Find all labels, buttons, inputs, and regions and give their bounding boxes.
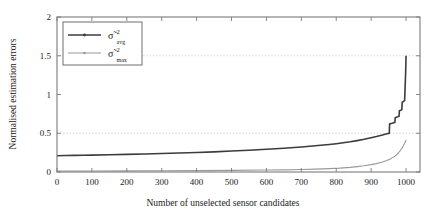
x-tick-label: 900 bbox=[364, 177, 378, 187]
x-tick-label: 1000 bbox=[397, 177, 416, 187]
x-tick-label: 300 bbox=[155, 177, 169, 187]
legend-label-sigma-max-sub: max bbox=[117, 57, 127, 63]
y-tick-label: 0 bbox=[47, 167, 52, 177]
y-axis-label: Normalised estimation errors bbox=[8, 38, 18, 149]
x-tick-label: 400 bbox=[190, 177, 204, 187]
x-tick-label: 200 bbox=[120, 177, 134, 187]
legend-swatch-marker-sigma-avg bbox=[83, 34, 86, 37]
x-tick-label: 700 bbox=[295, 177, 309, 187]
legend-label-sigma-max-sup: 2 bbox=[117, 46, 120, 53]
y-tick-label: 2 bbox=[47, 12, 52, 22]
x-tick-label: 800 bbox=[329, 177, 343, 187]
x-axis-tick-labels: 01002003004005006007008009001000 bbox=[55, 177, 416, 187]
x-tick-label: 0 bbox=[55, 177, 60, 187]
x-axis-label: Number of unselected sensor candidates bbox=[146, 198, 299, 208]
legend: σ̃ 2 avg σ̃ 2 max bbox=[63, 22, 142, 65]
legend-label-sigma-avg-sup: 2 bbox=[117, 28, 120, 35]
chart-figure: 01002003004005006007008009001000 00.511.… bbox=[0, 0, 440, 216]
x-tick-label: 600 bbox=[260, 177, 274, 187]
legend-box bbox=[63, 22, 142, 65]
legend-swatch-marker-sigma-max bbox=[83, 52, 86, 55]
x-tick-label: 500 bbox=[225, 177, 239, 187]
chart-svg: 01002003004005006007008009001000 00.511.… bbox=[0, 0, 440, 216]
y-tick-label: 1 bbox=[47, 90, 52, 100]
y-tick-label: 0.5 bbox=[40, 128, 52, 138]
y-axis-tick-labels: 00.511.52 bbox=[40, 12, 52, 177]
x-tick-label: 100 bbox=[85, 177, 99, 187]
legend-label-sigma-avg-sub: avg bbox=[117, 39, 126, 45]
y-tick-label: 1.5 bbox=[40, 51, 52, 61]
